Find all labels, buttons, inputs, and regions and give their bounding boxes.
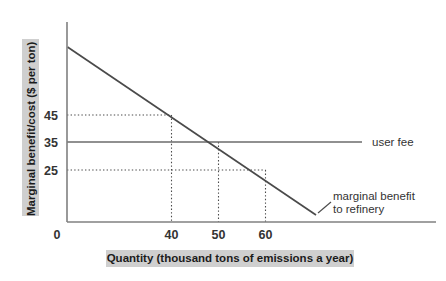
- series-label-user-fee: user fee: [372, 136, 414, 148]
- x-tick-label-40: 40: [165, 228, 179, 242]
- series-label-marginal-benefit-line2: to refinery: [333, 203, 384, 215]
- x-tick-label-0: 0: [54, 228, 61, 242]
- x-axis-title-text: Quantity (thousand tons of emissions a y…: [107, 252, 354, 264]
- series-label-marginal-benefit-line1: marginal benefit: [333, 190, 416, 202]
- x-axis-title: Quantity (thousand tons of emissions a y…: [106, 250, 354, 267]
- y-axis-title: Marginal benefit/cost ($ per ton): [22, 39, 39, 216]
- y-tick-label-45: 45: [44, 109, 58, 123]
- x-tick-label-60: 60: [259, 228, 273, 242]
- y-axis-title-text: Marginal benefit/cost ($ per ton): [25, 41, 37, 216]
- x-tick-label-50: 50: [212, 228, 226, 242]
- chart-figure: 45 35 25 0 40 50 60 user fee marginal be…: [0, 0, 446, 281]
- y-tick-label-35: 35: [44, 136, 58, 150]
- y-tick-label-25: 25: [44, 164, 58, 178]
